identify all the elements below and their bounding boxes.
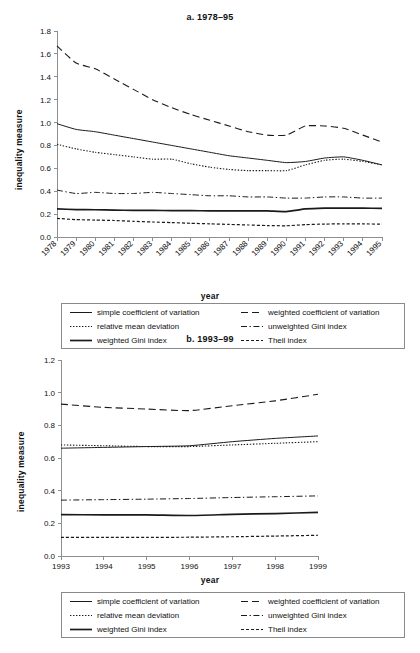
panel-b-svg: 0.00.20.40.60.81.01.21993199419951996199…	[0, 320, 420, 570]
legend-item-theil: Theil index	[233, 622, 404, 636]
x-tick-label: 1992	[307, 239, 326, 258]
legend-item-unweighted_gini: unweighted Gini index	[233, 608, 404, 622]
x-tick-label: 1994	[345, 239, 364, 258]
x-tick-label: 1993	[326, 239, 345, 258]
x-tick-label: 1987	[212, 239, 231, 258]
legend-label: simple coefficient of variation	[97, 596, 200, 607]
legend-swatch-weighted_gini-icon	[70, 625, 92, 634]
x-tick-label: 1988	[231, 239, 250, 258]
x-tick-label: 1983	[135, 239, 154, 258]
x-tick-label: 1980	[78, 239, 97, 258]
legend-swatch-weighted_cv-icon	[241, 308, 263, 317]
x-tick-label: 1993	[52, 562, 70, 570]
y-tick-label: 1.0	[40, 119, 52, 128]
series-line	[57, 190, 382, 198]
y-tick-label: 0.4	[44, 487, 56, 496]
panel-b-plot: 0.00.20.40.60.81.01.21993199419951996199…	[0, 320, 420, 570]
x-tick-label: 1996	[181, 562, 199, 570]
legend-label: simple coefficient of variation	[97, 307, 200, 318]
series-line	[61, 512, 318, 515]
panel-a-x-axis-label: year	[0, 291, 420, 301]
legend-item-weighted_gini: weighted Gini index	[62, 622, 233, 636]
series-line	[61, 535, 318, 537]
legend-item-simple_cv: simple coefficient of variation	[62, 305, 233, 319]
series-line	[57, 218, 382, 225]
legend-item-weighted_cv: weighted coefficient of variation	[233, 305, 404, 319]
chart-panel-b: b. 1993–99 inequality measure 0.00.20.40…	[0, 320, 420, 653]
x-tick-label: 1982	[116, 239, 135, 258]
legend-swatch-weighted_cv-icon	[241, 597, 263, 606]
x-tick-label: 1981	[97, 239, 116, 258]
y-tick-label: 1.4	[40, 73, 52, 82]
legend-label: Theil index	[268, 624, 307, 635]
y-tick-label: 1.2	[40, 96, 52, 105]
y-tick-label: 1.6	[40, 50, 52, 59]
x-tick-label: 1999	[309, 562, 327, 570]
chart-panel-a: a. 1978–95 inequality measure 0.00.20.40…	[0, 0, 420, 330]
series-line	[57, 124, 382, 165]
legend-swatch-theil-icon	[241, 625, 263, 634]
panel-b-x-axis-label: year	[0, 575, 420, 585]
legend-swatch-unweighted_gini-icon	[241, 611, 263, 620]
y-tick-label: 1.8	[40, 27, 52, 36]
x-tick-label: 1997	[223, 562, 241, 570]
legend-item-simple_cv: simple coefficient of variation	[62, 594, 233, 608]
legend-swatch-simple_cv-icon	[70, 597, 92, 606]
legend-label: relative mean deviation	[97, 610, 179, 621]
y-tick-label: 0.8	[44, 421, 56, 430]
y-tick-label: 0.2	[40, 210, 52, 219]
y-tick-label: 1.0	[44, 389, 56, 398]
y-tick-label: 0.6	[40, 164, 52, 173]
panel-a-plot: 0.00.20.40.60.81.01.21.41.61.81978197919…	[0, 0, 420, 285]
series-line	[61, 394, 318, 410]
x-tick-label: 1979	[59, 239, 78, 258]
x-tick-label: 1991	[288, 239, 307, 258]
legend-item-weighted_cv: weighted coefficient of variation	[233, 594, 404, 608]
x-tick-label: 1998	[266, 562, 284, 570]
legend-label: weighted coefficient of variation	[268, 596, 379, 607]
x-tick-label: 1986	[192, 239, 211, 258]
series-line	[57, 46, 382, 142]
series-line	[61, 436, 318, 448]
panel-b-legend: simple coefficient of variationweighted …	[61, 592, 405, 638]
legend-swatch-relative_mean_deviation-icon	[70, 611, 92, 620]
y-tick-label: 0.8	[40, 141, 52, 150]
series-line	[57, 208, 382, 212]
legend-label: weighted Gini index	[97, 624, 167, 635]
y-tick-label: 0.2	[44, 519, 56, 528]
x-tick-label: 1995	[364, 239, 383, 258]
y-tick-label: 0.6	[44, 454, 56, 463]
panel-a-svg: 0.00.20.40.60.81.01.21.41.61.81978197919…	[0, 0, 420, 285]
series-line	[61, 496, 318, 500]
x-tick-label: 1994	[95, 562, 113, 570]
x-tick-label: 1989	[250, 239, 269, 258]
legend-label: unweighted Gini index	[268, 610, 347, 621]
y-tick-label: 0.0	[44, 552, 56, 561]
x-tick-label: 1985	[173, 239, 192, 258]
y-tick-label: 0.4	[40, 187, 52, 196]
legend-item-relative_mean_deviation: relative mean deviation	[62, 608, 233, 622]
legend-label: weighted coefficient of variation	[268, 307, 379, 318]
legend-swatch-simple_cv-icon	[70, 308, 92, 317]
x-tick-label: 1995	[138, 562, 156, 570]
x-tick-label: 1990	[269, 239, 288, 258]
y-tick-label: 1.2	[44, 356, 56, 365]
x-tick-label: 1984	[154, 239, 173, 258]
